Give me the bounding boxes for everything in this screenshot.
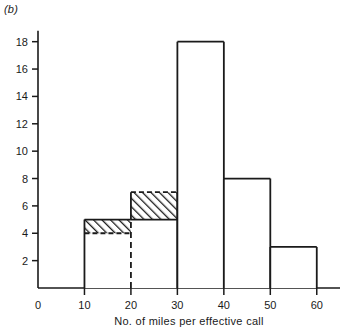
- bars-group: [84, 42, 316, 288]
- histogram-bar: [224, 179, 270, 288]
- histogram-bar: [177, 42, 223, 288]
- panel-label: (b): [4, 3, 18, 15]
- y-tick-label: 6: [22, 200, 28, 212]
- histogram-bar: [131, 192, 177, 288]
- bar-solid-fill: [131, 220, 177, 288]
- y-tick-label: 10: [16, 145, 28, 157]
- bar-solid-fill: [177, 42, 223, 288]
- bar-solid-fill: [224, 179, 270, 288]
- x-tick-label: 60: [311, 299, 323, 311]
- y-tick-label: 12: [16, 118, 28, 130]
- y-tick-label: 18: [16, 36, 28, 48]
- histogram-bar: [84, 220, 130, 288]
- x-tick-label: 0: [35, 299, 41, 311]
- bar-solid-fill: [84, 233, 130, 288]
- y-tick-label: 4: [22, 227, 28, 239]
- histogram-plot: 24681012141618 0102030405060 No. of mile…: [0, 0, 350, 335]
- x-tick-label: 10: [78, 299, 90, 311]
- y-axis: 24681012141618: [16, 31, 38, 288]
- y-tick-label: 14: [16, 90, 28, 102]
- bar-hatched-band: [131, 192, 177, 219]
- y-tick-label: 16: [16, 63, 28, 75]
- bar-solid-fill: [270, 247, 316, 288]
- x-tick-label: 30: [171, 299, 183, 311]
- bar-hatched-band: [84, 220, 130, 234]
- x-tick-label: 50: [264, 299, 276, 311]
- x-tick-label: 20: [125, 299, 137, 311]
- x-tick-label: 40: [218, 299, 230, 311]
- y-tick-label: 2: [22, 255, 28, 267]
- x-axis-title: No. of miles per effective call: [114, 315, 264, 327]
- histogram-bar: [270, 247, 316, 288]
- histogram-figure: (b) 24681012141618 0102030405060 No. of …: [0, 0, 350, 335]
- y-tick-label: 8: [22, 173, 28, 185]
- x-axis: 0102030405060: [35, 288, 340, 311]
